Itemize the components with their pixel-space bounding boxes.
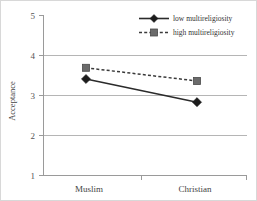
chart-figure: 5 4 3 2 1 Muslim Christian Acceptance lo… [0, 0, 257, 201]
data-point-low-muslim [81, 74, 90, 83]
y-tick-label-5: 5 [31, 11, 36, 21]
data-point-high-christian [194, 78, 201, 85]
legend-item-high-multireligiosity: high multireligiosity [139, 28, 235, 37]
line-chart: 5 4 3 2 1 Muslim Christian Acceptance lo… [1, 1, 257, 201]
x-category-label-muslim: Muslim [75, 184, 103, 194]
y-tick-label-1: 1 [31, 171, 36, 181]
y-tick-label-3: 3 [31, 91, 36, 101]
legend-diamond-icon [150, 15, 158, 23]
legend-label-high: high multireligiosity [173, 28, 235, 37]
data-point-high-muslim [83, 64, 90, 71]
series-line-high-multireligiosity [86, 68, 197, 81]
x-category-label-christian: Christian [179, 184, 212, 194]
y-axis-title: Acceptance [7, 81, 17, 121]
series-line-low-multireligiosity [86, 79, 197, 102]
legend-item-low-multireligiosity: low multireligiosity [139, 14, 233, 23]
y-tick-label-2: 2 [31, 131, 36, 141]
data-point-low-christian [192, 98, 201, 107]
chart-legend: low multireligiosity high multireligiosi… [139, 14, 235, 37]
y-tick-label-4: 4 [31, 51, 36, 61]
legend-square-icon [151, 29, 158, 36]
legend-label-low: low multireligiosity [173, 14, 233, 23]
